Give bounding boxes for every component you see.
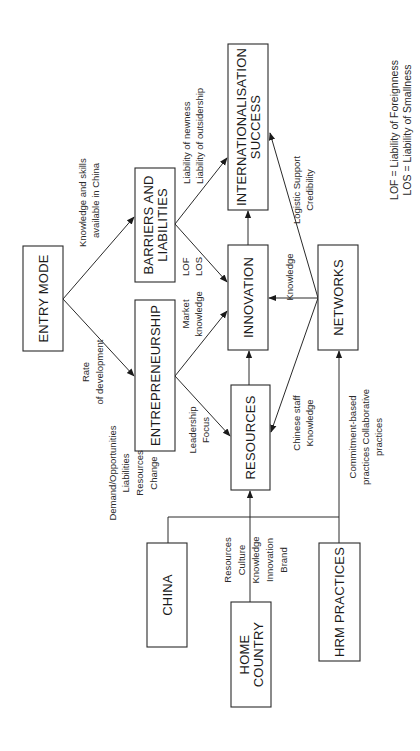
edge-label-china-line2: Liabilities (120, 453, 131, 492)
legend-los: LOS = Liability of Smallness (401, 64, 413, 195)
internationalisation-label-line2: SUCCESS (248, 95, 263, 159)
entry-mode-label: ENTRY MODE (36, 254, 51, 342)
edge-label-china-line3: Resources (134, 450, 145, 496)
edge-label-networks-innovation: Knowledge (284, 253, 295, 300)
edge-label-networks-resources-line1: Chinese staff (291, 395, 302, 451)
entrepreneurship-node: ENTREPRENEURSHIP (135, 300, 175, 451)
edge-label-entrepreneurship-resources-line2: Focus (200, 417, 211, 443)
home-country-node: HOME COUNTRY (231, 602, 271, 707)
edge-label-networks-resources-line2: Knowledge (304, 399, 315, 446)
barriers-label-line1: BARRIERS AND (141, 175, 156, 274)
edge-label-home-line3: Knowledge (250, 536, 261, 583)
legend-lof: LOF = Liability of Foreignness (388, 60, 400, 200)
internationalisation-label-line1: INTERNATIONALISATION (234, 48, 249, 206)
edge-label-hrm-line3: practices (373, 418, 384, 456)
home-country-label-line2: COUNTRY (251, 622, 266, 688)
edge-label-home-line2: Culture (236, 545, 247, 576)
edge-label-networks-intl-line1: Logistic Support (291, 156, 302, 224)
edge-label-entry-entrepreneurship-line1: Rate (80, 362, 91, 382)
internationalisation-success-node: INTERNATIONALISATION SUCCESS (228, 44, 268, 210)
edge-label-entry-barriers-line2: available in China (90, 162, 101, 238)
edge-label-entrepreneurship-innovation-line2: knowledge (193, 291, 204, 336)
edge-label-china-line4: Change (148, 456, 159, 489)
home-country-label-line1: HOME (237, 634, 252, 674)
conceptual-framework-diagram: ENTRY MODE BARRIERS AND LIABILITIES ENTR… (0, 0, 420, 751)
barriers-label-line2: LIABILITIES (155, 188, 170, 262)
networks-label: NETWORKS (331, 259, 346, 336)
resources-label: RESOURCES (243, 395, 258, 479)
networks-node: NETWORKS (318, 245, 358, 350)
entry-mode-node: ENTRY MODE (23, 246, 63, 351)
edge-label-home-line4: Innovation (264, 538, 275, 582)
edge-label-barriers-intl-line1: Liability of newness (181, 101, 192, 184)
edge-label-china-line1: Demand/Opportunities (107, 425, 118, 520)
resources-node: RESOURCES (231, 385, 270, 490)
barriers-liabilities-node: BARRIERS AND LIABILITIES (135, 168, 175, 282)
edge-label-hrm-line2: practices Collaborative (360, 389, 371, 485)
china-label: CHINA (160, 574, 175, 616)
edge-label-networks-intl-line2: Credibility (304, 169, 315, 211)
entrepreneurship-label: ENTREPRENEURSHIP (148, 305, 163, 446)
edge-label-hrm-line1: Commitment-based (347, 396, 358, 479)
edge-label-home-line5: Brand (278, 547, 289, 572)
hrm-practices-node: HRM PRACTICES (319, 543, 360, 661)
edge-label-entrepreneurship-resources-line1: Leadership (187, 406, 198, 453)
edge-label-barriers-innovation-line2: LOS (193, 257, 204, 276)
edge-label-entrepreneurship-innovation-line1: Market (180, 299, 191, 328)
edge-label-home-line1: Resources (222, 537, 233, 583)
edge-label-entry-entrepreneurship-line2: of development (94, 339, 105, 404)
legend: LOF = Liability of Foreignness LOS = Lia… (388, 60, 413, 200)
edge-label-barriers-innovation-line1: LOF (180, 257, 191, 276)
china-node: CHINA (147, 543, 187, 647)
edge-label-barriers-intl-line2: Liability of outsidership (194, 88, 205, 184)
hrm-practices-label: HRM PRACTICES (332, 547, 347, 657)
edge-label-entry-barriers-line1: Knowledge and skills (77, 158, 88, 247)
innovation-node: INNOVATION (228, 245, 268, 350)
innovation-label: INNOVATION (241, 257, 256, 338)
